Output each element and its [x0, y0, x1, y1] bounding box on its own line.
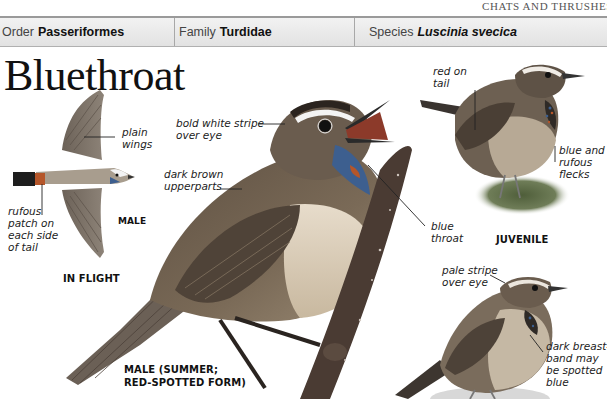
note-red-on-tail: red on tail: [433, 65, 467, 89]
juvenile-caption: JUVENILE: [496, 233, 549, 246]
note-bold-white-stripe: bold white stripe over eye: [176, 117, 264, 141]
note-plain-wings: plain wings: [122, 126, 152, 150]
female-bird-illustration: [395, 277, 568, 399]
note-blue-throat: blue throat: [431, 220, 463, 244]
note-blue-rufous-flecks: blue and rufous flecks: [559, 144, 605, 180]
note-pale-stripe: pale stripe over eye: [442, 264, 498, 288]
bird-illustrations: [0, 0, 607, 399]
in-flight-sex-label: MALE: [118, 215, 146, 228]
note-rufous-tail-patch: rufous patch on each side of tail: [8, 205, 58, 253]
in-flight-caption: IN FLIGHT: [63, 272, 120, 285]
note-dark-brown-upperparts: dark brown upperparts: [164, 168, 223, 192]
male-summer-caption: MALE (SUMMER; RED-SPOTTED FORM): [124, 363, 246, 389]
male-summer-bird-illustration: [66, 100, 412, 399]
note-dark-breast-band: dark breast- band may be spotted blue: [546, 340, 607, 388]
